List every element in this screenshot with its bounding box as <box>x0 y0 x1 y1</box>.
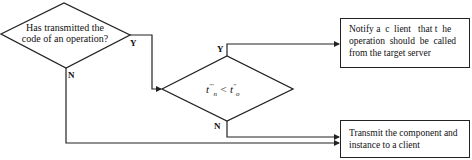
process-transmit-text: Transmit the component and instance to a… <box>349 128 458 150</box>
connector-d2-yes <box>227 44 339 56</box>
decision1-question: Has transmitted the code of an operation… <box>15 22 115 44</box>
cond-right-sup: '' <box>233 82 236 90</box>
decision1-yes-label: Y <box>130 38 137 48</box>
decision2-condition: t'''n < t''o <box>206 81 240 100</box>
decision1-line2: code of an operation? <box>15 33 115 44</box>
process-notify-text: Notify a c lient that t he operation sho… <box>349 24 458 58</box>
decision1-line1: Has transmitted the <box>15 22 115 33</box>
process-notify-client: Notify a c lient that t he operation sho… <box>340 18 470 68</box>
process-transmit-component: Transmit the component and instance to a… <box>340 120 470 158</box>
decision2-no-label: N <box>214 121 221 131</box>
connector-d2-no <box>227 121 339 137</box>
cond-right-sub: o <box>236 90 240 98</box>
decision1-no-label: N <box>68 70 75 80</box>
cond-operator: < <box>217 83 230 95</box>
decision2-yes-label: Y <box>217 44 224 54</box>
cond-left-sup: ''' <box>209 82 214 90</box>
